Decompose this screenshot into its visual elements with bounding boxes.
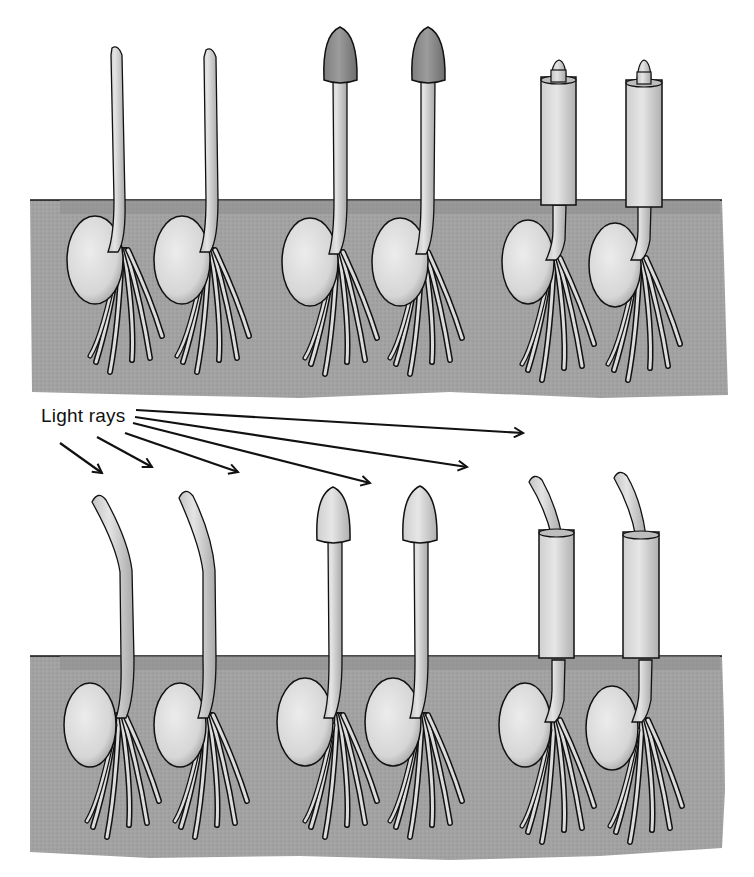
light-rays-label: Light rays	[41, 405, 125, 427]
translucent-cap	[317, 487, 350, 543]
opaque-cap	[412, 27, 445, 83]
light-rays	[60, 410, 523, 483]
opaque-collar	[541, 77, 576, 205]
phototropism-diagram	[0, 0, 754, 877]
top-panel	[30, 27, 728, 398]
opaque-collar	[623, 532, 659, 658]
bottom-panel	[30, 472, 725, 860]
opaque-collar	[539, 530, 574, 658]
opaque-collar	[626, 80, 662, 207]
opaque-cap	[324, 27, 357, 83]
translucent-cap	[403, 486, 437, 543]
